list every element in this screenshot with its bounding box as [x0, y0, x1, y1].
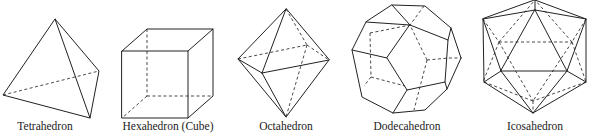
tetrahedron-drawing	[3, 19, 99, 118]
dodecahedron-label: Dodecahedron	[373, 120, 440, 132]
tetrahedron-label: Tetrahedron	[17, 120, 72, 132]
icosahedron-drawing	[483, 0, 586, 113]
octahedron-drawing	[238, 9, 329, 117]
octahedron-label: Octahedron	[259, 120, 313, 132]
cube-drawing	[122, 29, 213, 118]
platonic-solids-figure	[0, 0, 590, 135]
hexahedron-label: Hexahedron (Cube)	[122, 120, 213, 132]
icosahedron-label: Icosahedron	[507, 120, 563, 132]
dodecahedron-drawing	[352, 5, 462, 113]
